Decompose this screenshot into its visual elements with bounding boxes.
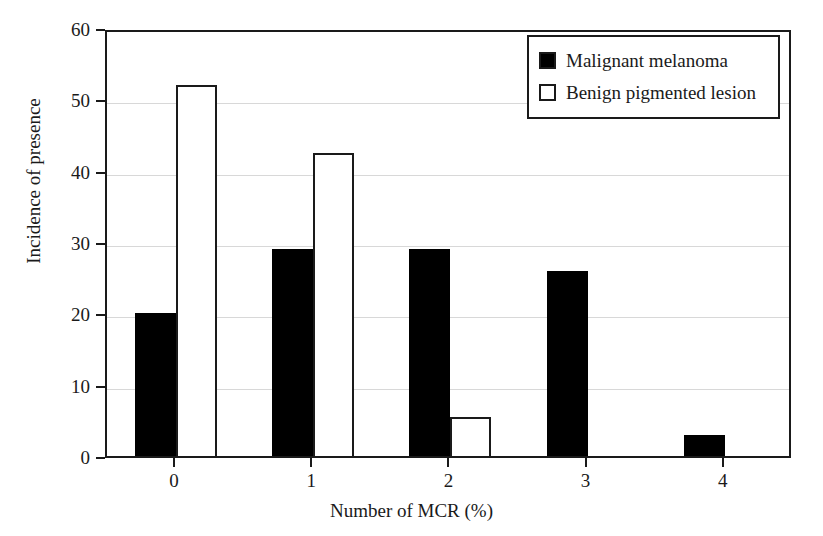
y-axis-tick-label: 40 <box>44 163 90 182</box>
bar <box>176 85 217 456</box>
y-axis-tick-label: 50 <box>44 91 90 110</box>
legend-swatch-filled-square-icon <box>539 52 556 69</box>
x-axis-tick-label: 2 <box>428 470 468 492</box>
y-axis-tick-mark <box>96 172 105 174</box>
y-axis-tick-label: 20 <box>44 305 90 324</box>
bar <box>272 249 313 456</box>
y-axis-tick-mark <box>96 314 105 316</box>
x-axis-tick-mark <box>585 458 587 467</box>
y-axis-tick-mark <box>96 457 105 459</box>
bar <box>409 249 450 456</box>
x-axis-tick-label: 1 <box>291 470 331 492</box>
y-axis-tick-mark <box>96 386 105 388</box>
x-axis-tick-label: 0 <box>154 470 194 492</box>
legend-entry: Benign pigmented lesion <box>539 76 768 108</box>
bar <box>547 271 588 456</box>
y-axis-tick-mark <box>96 29 105 31</box>
x-axis-label: Number of MCR (%) <box>0 500 823 522</box>
x-axis-tick-mark <box>447 458 449 467</box>
x-axis-tick-label: 4 <box>703 470 743 492</box>
legend-label: Benign pigmented lesion <box>566 83 756 102</box>
bar <box>684 435 725 456</box>
legend-entry: Malignant melanoma <box>539 44 768 76</box>
bar <box>313 153 354 456</box>
x-axis-tick-mark <box>310 458 312 467</box>
bar-chart-figure: 0102030405060 Incidence of presence 0123… <box>0 0 823 536</box>
bar <box>450 417 491 456</box>
y-axis-tick-label: 60 <box>44 20 90 39</box>
y-axis-tick-mark <box>96 100 105 102</box>
x-axis-tick-mark <box>722 458 724 467</box>
y-axis-tick-mark <box>96 243 105 245</box>
chart-legend: Malignant melanoma Benign pigmented lesi… <box>527 35 780 119</box>
x-axis-tick-mark <box>173 458 175 467</box>
bar <box>135 313 176 456</box>
legend-label: Malignant melanoma <box>566 51 728 70</box>
y-axis-tick-label: 0 <box>44 448 90 467</box>
x-axis-tick-label: 3 <box>566 470 606 492</box>
y-axis-tick-label: 10 <box>44 377 90 396</box>
y-axis-tick-label: 30 <box>44 234 90 253</box>
y-axis-label: Incidence of presence <box>23 51 45 311</box>
legend-swatch-open-square-icon <box>539 84 556 101</box>
